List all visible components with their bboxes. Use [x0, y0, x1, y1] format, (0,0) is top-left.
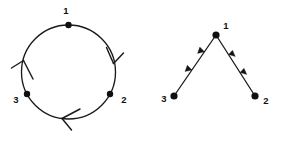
panel-tree-graph: 1 2 3	[161, 20, 268, 106]
tree-node-1-label: 1	[223, 20, 229, 31]
cycle-node-2-label: 2	[121, 94, 126, 105]
tree-node-2-label: 2	[263, 95, 268, 106]
tree-edge-3-to-1	[174, 35, 216, 96]
arrowheads-edge-2-to-1	[229, 50, 247, 74]
cycle-node-1[interactable]	[65, 22, 71, 28]
arrowheads-edge-3-to-1	[185, 47, 205, 72]
cycle-node-3[interactable]	[24, 91, 30, 97]
tree-node-1[interactable]	[212, 31, 219, 38]
tree-edge-2-to-1	[216, 35, 255, 96]
cycle-node-3-label: 3	[13, 94, 18, 105]
tree-node-2[interactable]	[251, 92, 258, 99]
tree-node-3[interactable]	[170, 92, 177, 99]
panel-cycle-graph: 1 2 3	[12, 5, 127, 130]
cycle-node-1-label: 1	[63, 5, 69, 16]
diagram-svg: 1 2 3 1 2	[0, 0, 282, 146]
cycle-node-2[interactable]	[107, 91, 113, 97]
figure-canvas: 1 2 3 1 2	[0, 0, 282, 146]
arrowhead-edge-1-to-2	[107, 48, 124, 64]
tree-node-3-label: 3	[161, 93, 166, 104]
cycle-edge-path	[22, 25, 116, 119]
